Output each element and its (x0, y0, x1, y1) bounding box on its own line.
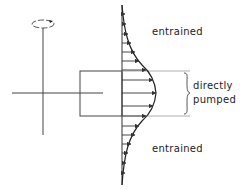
label-entrained-bottom: entrained (152, 143, 203, 154)
rotation-arrow-icon (32, 20, 54, 28)
velocity-profile-curve (122, 5, 156, 185)
label-entrained-top: entrained (152, 26, 203, 37)
brace-icon (184, 73, 190, 114)
label-pumped: pumped (193, 94, 236, 105)
rotation-axis (12, 28, 103, 135)
label-directly: directly (193, 80, 233, 91)
